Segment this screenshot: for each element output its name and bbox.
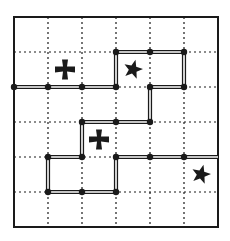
matchstick-head [113,189,119,195]
matchstick-head [147,119,153,125]
matchstick-head [79,154,85,160]
matchstick-head [181,49,187,55]
matchstick [113,154,150,160]
cross-icon [55,60,75,80]
matchstick [113,157,119,195]
matchstick-head [11,84,17,90]
matchstick-head [147,84,153,90]
matchstick [82,119,119,125]
matchsticks [11,49,218,195]
matchstick-head [181,154,187,160]
matchstick [45,84,82,90]
matchstick [147,84,153,122]
matchstick [116,119,153,125]
matchstick-head [147,154,153,160]
matchstick [147,154,184,160]
matchstick [79,189,116,195]
matchstick-head [113,154,119,160]
matchstick-head [147,49,153,55]
matchstick [79,119,85,157]
matchstick-head [79,189,85,195]
matchstick-head [113,84,119,90]
star-icon [193,165,212,184]
matchstick [79,84,116,90]
matchstick [147,49,184,55]
matchstick [11,84,48,90]
matchstick [113,52,119,90]
matchstick-head [113,49,119,55]
matchstick [181,49,187,87]
matchstick-grid-puzzle [0,0,230,241]
cross-icon [89,130,109,150]
matchstick [181,154,218,160]
matchstick-head [45,154,51,160]
matchstick [113,49,150,55]
matchstick [150,84,187,90]
matchstick-head [113,119,119,125]
matchstick-head [181,84,187,90]
matchstick [48,154,85,160]
matchstick-head [79,119,85,125]
matchstick [45,189,82,195]
matchstick-head [45,189,51,195]
matchstick-head [79,84,85,90]
star-icon [125,60,144,79]
matchstick-head [45,84,51,90]
matchstick [45,154,51,192]
